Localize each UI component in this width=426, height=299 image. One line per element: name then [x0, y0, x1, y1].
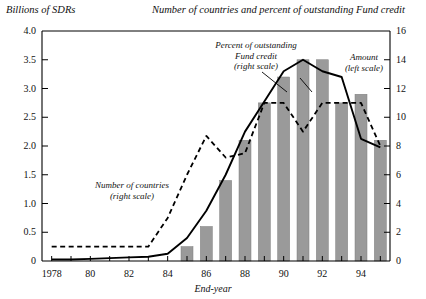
right-tick-label: 16	[396, 25, 426, 36]
annotation-line: (right scale)	[198, 61, 314, 72]
bar	[220, 181, 232, 262]
x-tick-label: 88	[225, 268, 265, 279]
bar	[316, 60, 328, 261]
annotation-line: Fund credit	[198, 51, 314, 62]
right-tick-label: 8	[396, 140, 426, 151]
annotation-line: Percent of outstanding	[198, 40, 314, 51]
x-tick-label: 92	[302, 268, 342, 279]
chart-figure: Billions of SDRs Number of countries and…	[0, 0, 426, 299]
left-tick-label: 3.5	[0, 54, 36, 65]
right-tick-label: 2	[396, 226, 426, 237]
bar	[297, 60, 309, 261]
annotation-line: Number of countries	[72, 180, 192, 191]
right-tick-label: 0	[396, 255, 426, 266]
bar	[355, 94, 367, 261]
left-tick-label: 3.0	[0, 83, 36, 94]
bar	[374, 140, 386, 261]
right-tick-label: 12	[396, 83, 426, 94]
right-tick-label: 6	[396, 169, 426, 180]
solid-series-line	[52, 60, 381, 260]
x-axis-title: End-year	[0, 283, 426, 294]
x-tick-label: 82	[109, 268, 149, 279]
annotation-line: Amount	[328, 52, 400, 63]
x-tick-label: 94	[341, 268, 381, 279]
bar	[200, 227, 212, 262]
left-tick-label: 2.0	[0, 140, 36, 151]
x-tick-label: 90	[264, 268, 304, 279]
bar-group	[181, 60, 386, 261]
bar	[278, 77, 290, 261]
annotation-line: (left scale)	[328, 63, 400, 74]
x-tick-label: 80	[70, 268, 110, 279]
right-tick-label: 14	[396, 54, 426, 65]
x-tick-label: 1978	[32, 268, 72, 279]
left-tick-label: 4.0	[0, 25, 36, 36]
x-tick-label: 84	[148, 268, 188, 279]
line-group	[52, 60, 381, 260]
annotation-amount: Amount (left scale)	[328, 52, 400, 73]
x-tick-label: 86	[186, 268, 226, 279]
left-tick-label: 2.5	[0, 111, 36, 122]
left-tick-label: 0.5	[0, 226, 36, 237]
dashed-series-line	[52, 103, 381, 247]
bar	[258, 103, 270, 261]
annotation-number-of-countries: Number of countries (right scale)	[72, 180, 192, 201]
left-tick-label: 0	[0, 255, 36, 266]
left-tick-label: 1.0	[0, 198, 36, 209]
right-tick-label: 4	[396, 198, 426, 209]
bar	[239, 140, 251, 261]
bar	[336, 103, 348, 261]
right-tick-label: 10	[396, 111, 426, 122]
annotation-percent-of-credit: Percent of outstanding Fund credit (righ…	[198, 40, 314, 72]
annotation-line: (right scale)	[72, 191, 192, 202]
left-tick-label: 1.5	[0, 169, 36, 180]
